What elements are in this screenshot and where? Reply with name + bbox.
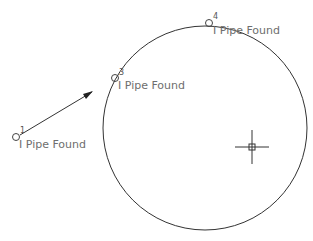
point-label: I Pipe Found [118, 79, 185, 92]
direction-arrow[interactable] [20, 91, 93, 135]
point-label: I Pipe Found [213, 24, 280, 37]
survey-point-4[interactable]: 4 I Pipe Found [206, 12, 281, 37]
point-number: 3 [119, 68, 124, 77]
point-number: 1 [20, 126, 25, 135]
cad-drawing-canvas: 1 I Pipe Found 3 I Pipe Found 4 I Pipe F… [0, 0, 313, 241]
point-label: I Pipe Found [19, 138, 86, 151]
survey-point-3[interactable]: 3 I Pipe Found [112, 68, 186, 92]
point-marker-icon [206, 20, 213, 27]
boundary-circle[interactable] [103, 26, 307, 230]
point-number: 4 [213, 12, 218, 21]
arrowhead-icon [83, 91, 93, 99]
survey-point-1[interactable]: 1 I Pipe Found [13, 126, 87, 151]
crosshair-cursor-icon [235, 130, 269, 164]
